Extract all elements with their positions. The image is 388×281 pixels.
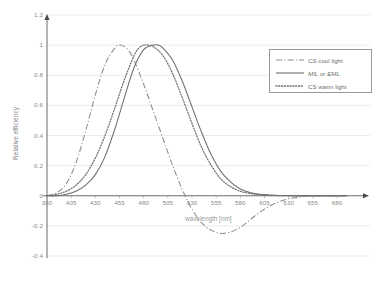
x-tick-label: 530	[182, 199, 202, 206]
y-axis-title: Relative efficiency	[12, 107, 19, 160]
y-tick-label: 0.2	[0, 162, 43, 169]
legend-item[interactable]: MIL or EML	[270, 66, 373, 80]
x-tick-label: 630	[279, 199, 299, 206]
legend-item-label: CS cool light	[308, 57, 343, 64]
legend-line-swatch	[275, 81, 305, 91]
chart-plot-area	[0, 0, 388, 281]
x-tick-label: 480	[134, 199, 154, 206]
x-tick-label: 455	[110, 199, 130, 206]
x-tick-label: 655	[303, 199, 323, 206]
y-tick-label: 0.8	[0, 71, 43, 78]
x-tick-label: 430	[85, 199, 105, 206]
x-tick-label: 505	[158, 199, 178, 206]
y-tick-label: 1	[0, 41, 43, 48]
y-tick-label: -0.4	[0, 252, 43, 259]
x-tick-label: 680	[327, 199, 347, 206]
y-tick-label: 1.2	[0, 11, 43, 18]
chart-container: 1.210.80.60.40.20-0.2-0.4 38040543045548…	[0, 0, 388, 281]
x-tick-label: 580	[230, 199, 250, 206]
y-tick-label: 0.6	[0, 101, 43, 108]
x-tick-label: 555	[206, 199, 226, 206]
legend-item[interactable]: CS warm light	[270, 79, 373, 93]
y-tick-label: 0	[0, 192, 43, 199]
legend-item-label: CS warm light	[308, 83, 347, 90]
legend-line-swatch	[275, 55, 305, 65]
x-tick-label: 380	[37, 199, 57, 206]
legend-line-swatch	[275, 68, 305, 78]
y-tick-label: 0.4	[0, 132, 43, 139]
x-tick-label: 605	[255, 199, 275, 206]
legend-item[interactable]: CS cool light	[270, 53, 373, 67]
x-tick-label: 405	[61, 199, 81, 206]
y-tick-label: -0.2	[0, 222, 43, 229]
legend-item-label: MIL or EML	[308, 70, 340, 77]
x-axis-title: wavelength [nm]	[185, 215, 232, 222]
chart-legend: CS cool lightMIL or EMLCS warm light	[269, 49, 372, 93]
